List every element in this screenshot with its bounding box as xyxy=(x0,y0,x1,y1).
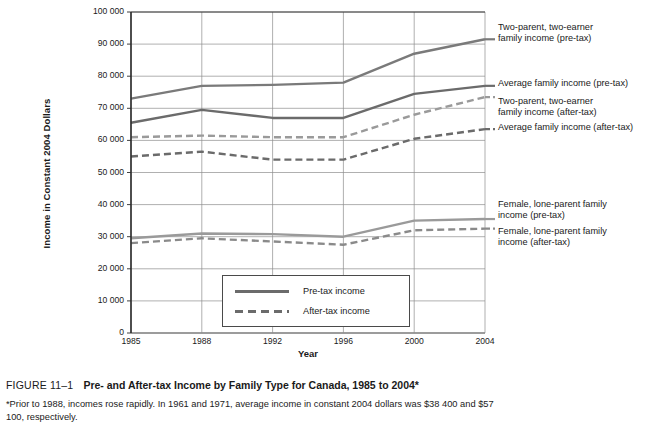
series-line-0 xyxy=(131,39,485,98)
series-callout-label: Female, lone-parent family income (pre-t… xyxy=(498,199,607,221)
figure-container: Income in Constant 2004 Dollars 010 0002… xyxy=(0,0,646,438)
x-tick-label: 1992 xyxy=(243,336,303,346)
series-line-3 xyxy=(131,129,485,159)
series-paths xyxy=(131,39,495,244)
caption-figure-number: FIGURE 11–1 xyxy=(6,379,73,391)
x-tick-label: 2004 xyxy=(455,336,515,346)
caption-title-text: Pre- and After-tax Income by Family Type… xyxy=(83,379,419,391)
series-callout-label: Female, lone-parent family income (after… xyxy=(498,226,607,248)
x-tick-label: 1985 xyxy=(101,336,161,346)
chart-plot-region: Income in Constant 2004 Dollars 010 0002… xyxy=(0,0,646,368)
legend-label-aftertax: After-tax income xyxy=(303,305,370,318)
series-line-1 xyxy=(131,86,485,123)
caption-footnote: *Prior to 1988, incomes rose rapidly. In… xyxy=(6,398,506,424)
figure-caption: FIGURE 11–1Pre- and After-tax Income by … xyxy=(6,378,640,424)
series-callout-label: Two-parent, two-earner family income (af… xyxy=(498,96,597,118)
series-callout-label: Average family income (after-tax) xyxy=(498,122,633,133)
x-axis-title: Year xyxy=(131,348,485,359)
chart-legend: Pre-tax income After-tax income xyxy=(222,275,410,327)
x-tick-label: 1996 xyxy=(313,336,373,346)
caption-headline: FIGURE 11–1Pre- and After-tax Income by … xyxy=(6,378,640,392)
legend-swatch-solid-icon xyxy=(235,290,289,293)
series-callout-label: Average family income (pre-tax) xyxy=(498,78,628,89)
legend-label-pretax: Pre-tax income xyxy=(303,285,365,298)
series-callout-label: Two-parent, two-earner family income (pr… xyxy=(498,22,593,44)
legend-swatch-dashed-icon xyxy=(235,310,289,313)
series-line-4 xyxy=(131,219,485,238)
x-tick-label: 2000 xyxy=(384,336,444,346)
x-tick-label: 1988 xyxy=(172,336,232,346)
